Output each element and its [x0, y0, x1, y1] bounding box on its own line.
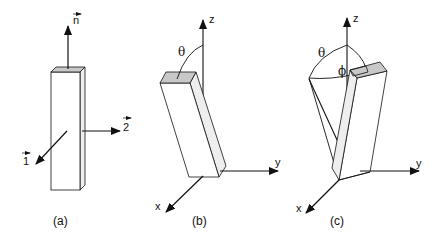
y-axis-label: y [416, 157, 422, 169]
phi-label: ϕ [338, 64, 346, 78]
x-axis-label: x [296, 202, 302, 214]
cone-top-right-arc [347, 45, 366, 68]
label-n-text: n [73, 14, 79, 26]
theta-label: θ [178, 45, 185, 59]
label-2-text: 2 [123, 121, 129, 133]
label-n: n [73, 14, 81, 26]
caption-b: (b) [192, 214, 207, 228]
bar-side-face [80, 67, 85, 190]
bar-front-face [51, 72, 80, 190]
y-axis-label: y [275, 156, 281, 168]
z-axis-label: z [209, 13, 215, 25]
cone-generatrix [309, 79, 338, 142]
panel-a: n 2 1 (a) [22, 14, 131, 228]
theta-label: θ [318, 46, 325, 60]
x-axis [166, 176, 203, 212]
z-axis-label: z [353, 12, 359, 24]
label-1-text: 1 [23, 155, 29, 167]
caption-a: (a) [53, 214, 68, 228]
label-2: 2 [123, 118, 131, 133]
diagram-canvas: n 2 1 (a) z θ y x (b) [0, 0, 442, 240]
bar-top-face [160, 72, 196, 83]
label-1: 1 [22, 153, 30, 167]
panel-b: z θ y x (b) [155, 13, 281, 228]
panel-c: z θ ϕ y x (c) [296, 12, 422, 228]
x-axis-label: x [155, 200, 161, 212]
x-axis [306, 180, 339, 213]
caption-c: (c) [330, 214, 344, 228]
